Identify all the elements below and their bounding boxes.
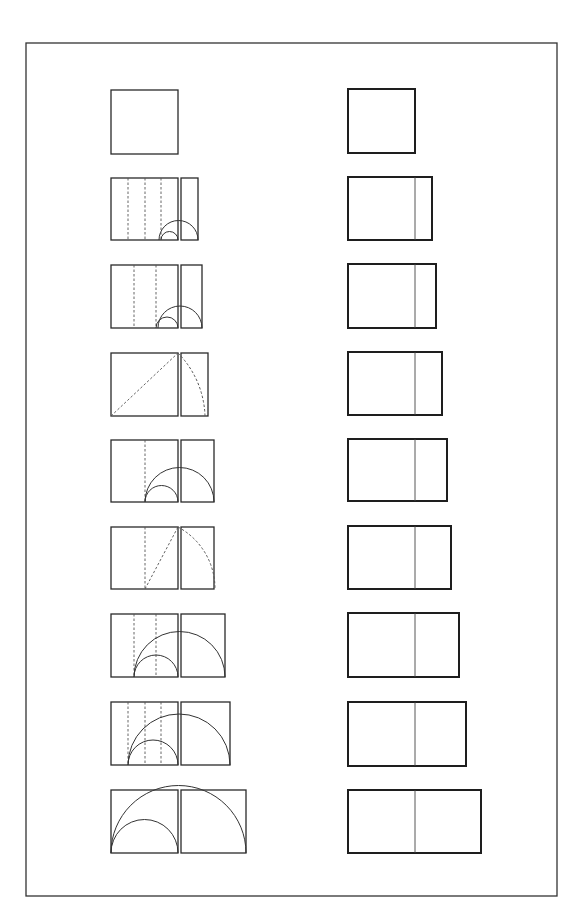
- result-rectangle: [348, 439, 447, 501]
- result-rect-row-9: [348, 790, 481, 853]
- extension-rect: [181, 265, 202, 328]
- construction-row-9: [111, 786, 246, 854]
- result-rect-row-5: [348, 439, 447, 501]
- extension-rect: [181, 790, 246, 853]
- square: [111, 527, 178, 589]
- construction-row-6: [111, 527, 215, 589]
- semicircle-arc: [128, 740, 178, 765]
- construction-row-7: [111, 614, 225, 677]
- result-rectangle: [348, 613, 459, 677]
- semicircle-arc: [134, 632, 225, 678]
- semicircle-arc: [145, 468, 214, 503]
- result-rectangle: [348, 526, 451, 589]
- semicircle-arc: [111, 820, 178, 854]
- left-column-constructions: [111, 90, 246, 853]
- square: [111, 790, 178, 853]
- semicircle-arc: [161, 232, 178, 241]
- square: [111, 614, 178, 677]
- result-rectangle: [348, 790, 481, 853]
- square: [111, 440, 178, 502]
- result-rect-row-3: [348, 264, 436, 328]
- construction-row-2: [111, 178, 198, 240]
- extension-rect: [181, 440, 214, 502]
- construction-row-5: [111, 440, 214, 502]
- result-rectangle: [348, 89, 415, 153]
- semicircle-arc: [145, 486, 178, 502]
- result-rect-row-6: [348, 526, 451, 589]
- construction-row-3: [111, 265, 202, 328]
- construction-row-8: [111, 702, 230, 765]
- square: [111, 178, 178, 240]
- result-rect-row-4: [348, 352, 442, 415]
- semicircle-arc: [128, 714, 230, 765]
- extension-rect: [181, 527, 214, 589]
- square: [111, 90, 178, 154]
- result-rectangle: [348, 177, 432, 240]
- result-rectangle: [348, 702, 466, 766]
- square: [111, 702, 178, 765]
- result-rect-row-8: [348, 702, 466, 766]
- construction-row-1: [111, 90, 178, 154]
- square: [111, 265, 178, 328]
- result-rectangle: [348, 352, 442, 415]
- outer-frame: [26, 43, 557, 896]
- rotation-arc: [178, 527, 215, 589]
- rotation-arc: [178, 353, 205, 416]
- extension-rect: [181, 614, 225, 677]
- result-rect-row-2: [348, 177, 432, 240]
- dashed-diagonal: [111, 353, 178, 416]
- result-rectangle: [348, 264, 436, 328]
- result-rect-row-1: [348, 89, 415, 153]
- construction-row-4: [111, 353, 208, 416]
- result-rect-row-7: [348, 613, 459, 677]
- extension-rect: [181, 702, 230, 765]
- dashed-diagonal: [145, 527, 178, 589]
- semicircle-arc: [156, 317, 178, 328]
- proportion-diagram: [0, 0, 582, 907]
- right-column-rectangles: [348, 89, 481, 853]
